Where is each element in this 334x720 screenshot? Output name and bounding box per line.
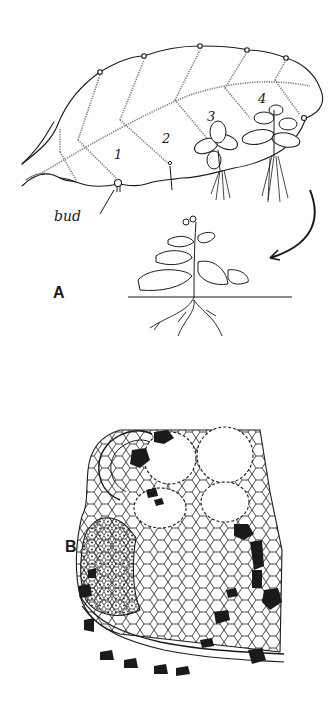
bud-annotation: bud bbox=[54, 209, 81, 223]
stage-label-2: 2 bbox=[162, 132, 170, 145]
panel-label-b: B bbox=[65, 539, 77, 555]
cell-section-illustration bbox=[0, 420, 334, 720]
stage-label-3: 3 bbox=[207, 110, 215, 123]
leaf-plantlet-illustration bbox=[0, 0, 334, 340]
stage-label-4: 4 bbox=[258, 92, 266, 105]
figure-panel-a: 1 2 3 4 bud A bbox=[0, 0, 334, 340]
figure-panel-b: B bbox=[0, 420, 334, 720]
panel-label-a: A bbox=[53, 285, 65, 301]
stage-label-1: 1 bbox=[114, 148, 122, 161]
